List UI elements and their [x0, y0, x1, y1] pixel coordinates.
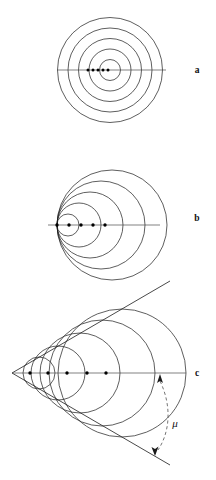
mach-angle-label: μ [171, 417, 178, 429]
source-dot [67, 223, 70, 226]
wavefront-diagram: a b [0, 0, 216, 480]
source-dot [28, 371, 31, 374]
mach-angle-annotation: μ [152, 374, 179, 456]
source-dot [107, 69, 110, 72]
source-dot [65, 371, 68, 374]
source-dot [91, 223, 94, 226]
axis-label-c: c [195, 368, 199, 378]
source-dot [79, 223, 82, 226]
source-dot [97, 69, 100, 72]
panel-label-b: b [194, 213, 199, 223]
source-dot [85, 371, 88, 374]
source-dot [103, 223, 106, 226]
mach-angle-arc [158, 381, 168, 450]
figure-root: a b [0, 0, 216, 480]
source-dot [55, 223, 58, 226]
panel-a: a [57, 18, 200, 123]
source-dot [92, 69, 95, 72]
panel-label-a: a [195, 65, 200, 75]
mach-cone-lower-line [12, 373, 170, 465]
source-dot [104, 371, 107, 374]
panel-c: μ c [12, 281, 199, 465]
panel-b: b [48, 170, 200, 280]
source-dot [46, 371, 49, 374]
source-dot [102, 69, 105, 72]
mach-cone-upper-line [12, 281, 170, 373]
source-dot [87, 69, 90, 72]
